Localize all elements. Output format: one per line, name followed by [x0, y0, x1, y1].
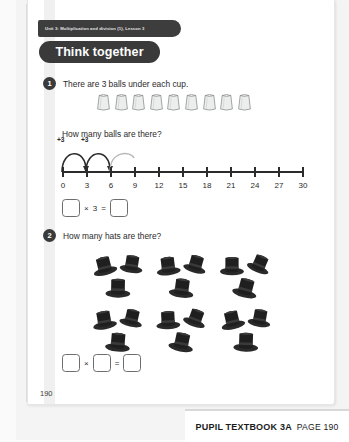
question-2-number: 2 [43, 229, 56, 242]
cup-icon [219, 92, 234, 112]
number-line-tick [182, 167, 184, 177]
think-together-banner: Think together [39, 41, 160, 63]
answer-box[interactable] [62, 354, 80, 372]
top-hat-icon [91, 309, 118, 331]
top-hat-icon [220, 257, 244, 275]
cup-icon [114, 92, 129, 112]
number-line-tick [302, 167, 304, 177]
top-hat-icon [182, 306, 210, 330]
number-line-tick-label: 6 [109, 181, 113, 190]
number-line-tick-label: 3 [85, 181, 89, 190]
question-1-prompt: There are 3 balls under each cup. [63, 79, 188, 89]
number-line-jumps: +3 +3 [55, 138, 185, 174]
multiply-operator: × [84, 359, 89, 368]
top-hat-icon [233, 332, 258, 352]
top-hat-icon [182, 252, 209, 275]
question-2-answer-row: × = [62, 354, 141, 372]
top-hat-icon [219, 308, 246, 331]
footer-book-label: PUPIL TEXTBOOK 3A [196, 422, 292, 432]
number-line-tick-label: 9 [133, 181, 137, 190]
number-line-tick [134, 167, 136, 177]
cup-icon [149, 92, 164, 112]
top-hat-icon [231, 276, 260, 301]
cup-icon [166, 92, 181, 112]
unit-lesson-tab: Unit 3: Multiplication and division (1),… [38, 20, 181, 37]
cup-icon [237, 92, 252, 112]
number-line-tick-label: 0 [61, 181, 65, 190]
number-line-tick [86, 167, 88, 177]
top-hat-icon [90, 254, 118, 278]
hats-illustration [88, 250, 278, 358]
answer-box[interactable] [62, 199, 80, 217]
question-1-answer-row: × 3 = [62, 199, 128, 217]
number-line: 036912151821242730 [62, 171, 302, 173]
answer-box[interactable] [110, 199, 128, 217]
top-hat-icon [156, 310, 181, 330]
cups-illustration [96, 92, 252, 112]
answer-box[interactable] [93, 354, 111, 372]
number-line-tick [206, 167, 208, 177]
number-line-tick-label: 15 [179, 181, 188, 190]
page-number: 190 [40, 389, 53, 398]
number-line-tick-label: 12 [155, 181, 164, 190]
number-line-tick-label: 18 [203, 181, 212, 190]
number-line-tick-label: 24 [251, 181, 260, 190]
left-margin-strip [0, 0, 16, 440]
number-line-tick [110, 167, 112, 177]
top-hat-icon [246, 251, 274, 276]
multiply-operator: × [84, 204, 89, 213]
operand-three: 3 [93, 204, 97, 213]
number-line-tick [158, 167, 160, 177]
top-hat-icon [119, 307, 145, 329]
number-line-tick-label: 30 [299, 181, 308, 190]
top-hat-icon [105, 278, 130, 297]
cup-icon [184, 92, 199, 112]
number-line-tick-label: 21 [227, 181, 236, 190]
number-line-tick [230, 167, 232, 177]
question-2-prompt: How many hats are there? [63, 231, 161, 241]
equals-sign: = [101, 204, 106, 213]
answer-box[interactable] [123, 354, 141, 372]
footer-band: PUPIL TEXTBOOK 3A PAGE 190 [185, 409, 349, 442]
top-hat-icon [168, 277, 195, 299]
equals-sign: = [115, 359, 120, 368]
top-hat-icon [119, 254, 144, 275]
number-line-tick [254, 167, 256, 177]
number-line-tick [62, 167, 64, 177]
cup-icon [131, 92, 146, 112]
cup-icon [202, 92, 217, 112]
cup-icon [96, 92, 111, 112]
jump-label-2: +3 [81, 136, 89, 143]
think-together-label: Think together [55, 45, 143, 59]
number-line-tick [278, 167, 280, 177]
unit-lesson-label: Unit 3: Multiplication and division (1),… [38, 26, 144, 31]
top-hat-icon [155, 256, 181, 277]
gutter-fold-line [26, 4, 27, 402]
top-hat-icon [247, 307, 273, 328]
number-line-tick-label: 27 [275, 181, 284, 190]
top-hat-icon [168, 330, 196, 354]
top-hat-icon [105, 332, 131, 353]
footer-page-label: PAGE 190 [297, 422, 339, 432]
question-1-number: 1 [43, 77, 56, 90]
jump-label-1: +3 [57, 136, 65, 143]
